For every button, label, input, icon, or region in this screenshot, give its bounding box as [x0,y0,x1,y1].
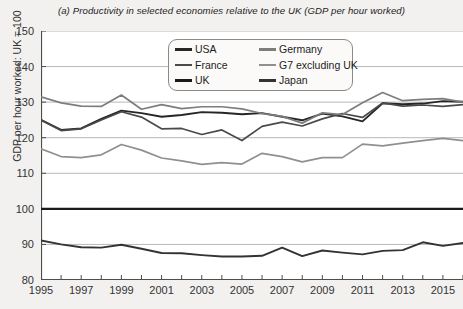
legend-swatch-icon [259,48,276,50]
legend-swatch-icon [259,64,276,66]
productivity-line-chart: (a) Productivity in selected economies r… [0,0,463,309]
x-tick-label-2005: 2005 [230,284,254,296]
x-tick-label-2007: 2007 [270,284,294,296]
y-tick-label-120: 120 [2,132,34,144]
legend-label: UK [195,75,210,86]
legend-swatch-icon [259,79,276,81]
y-tick-label-90: 90 [2,238,34,250]
y-tick-label-140: 140 [2,61,34,73]
legend-swatch-icon [175,48,192,50]
x-tick-label-2009: 2009 [310,284,334,296]
x-tick-label-1995: 1995 [29,284,53,296]
legend-item-germany[interactable]: Germany [259,44,358,55]
chart-title: (a) Productivity in selected economies r… [0,5,463,16]
x-axis-tick-labels: 1995199719992001200320052007200920112013… [41,283,463,303]
legend-item-uk[interactable]: UK [175,75,259,86]
y-tick-label-130: 130 [2,96,34,108]
x-tick-label-2011: 2011 [351,284,375,296]
x-tick-label-2013: 2013 [390,284,414,296]
legend-item-usa[interactable]: USA [175,44,259,55]
x-tick-label-1997: 1997 [69,284,93,296]
legend-label: Japan [279,75,308,86]
legend-label: France [195,60,228,71]
legend-item-g7-excluding-uk[interactable]: G7 excluding UK [259,60,358,71]
legend-label: USA [195,44,217,55]
legend-swatch-icon [175,64,192,66]
x-tick-label-2003: 2003 [190,284,214,296]
legend-item-japan[interactable]: Japan [259,75,358,86]
legend-label: Germany [279,44,322,55]
y-tick-label-110: 110 [2,167,34,179]
y-tick-label-150: 150 [2,25,34,37]
chart-legend: USAGermanyFranceG7 excluding UKUKJapan [168,39,353,91]
x-tick-label-1999: 1999 [109,284,133,296]
legend-swatch-icon [175,79,192,81]
legend-label: G7 excluding UK [279,60,358,71]
x-tick-label-2001: 2001 [149,284,173,296]
y-axis-tick-labels: 8090100110120130140150 [0,31,34,280]
y-tick-label-100: 100 [2,203,34,215]
x-tick-label-2015: 2015 [431,284,455,296]
legend-item-france[interactable]: France [175,60,259,71]
